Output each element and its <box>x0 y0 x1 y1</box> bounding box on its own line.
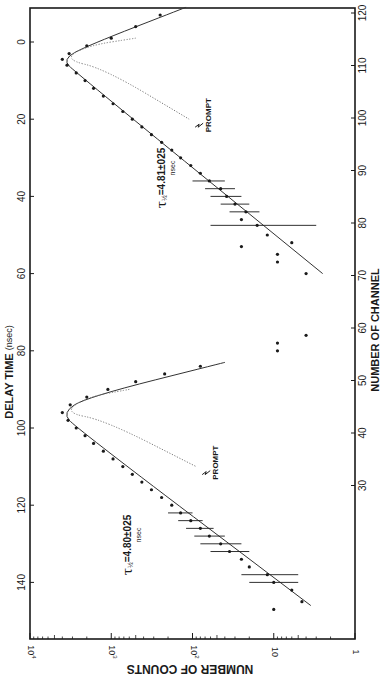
data-point <box>61 58 64 61</box>
data-point <box>83 434 86 437</box>
prompt-label: PROMPT <box>211 445 220 479</box>
counts-tick-label: 10 <box>269 647 279 657</box>
data-point <box>159 13 162 16</box>
data-point <box>170 148 173 151</box>
fit-curve <box>67 7 323 273</box>
channel-tick-label: 70 <box>357 270 368 282</box>
data-point <box>272 608 275 611</box>
counts-axis: 104103102101 <box>26 633 361 659</box>
prompt-arrow-icon <box>202 471 210 475</box>
lifetime-spectrum-chart: 020406080100120140 304050607080901001101… <box>0 0 385 678</box>
delay-tick-label: 100 <box>16 419 27 436</box>
delay-tick-label: 0 <box>16 39 27 45</box>
data-point <box>140 125 143 128</box>
plot-frame <box>30 8 355 639</box>
data-point <box>140 480 143 483</box>
data-point <box>160 141 163 144</box>
prompt-curve <box>71 38 189 119</box>
data-point <box>121 465 124 468</box>
data-point <box>102 450 105 453</box>
prompt-curve <box>71 389 196 466</box>
data-point <box>199 365 202 368</box>
svg-text:10: 10 <box>269 647 279 657</box>
channel-tick-label: 50 <box>357 375 368 387</box>
data-point <box>134 25 137 28</box>
channel-tick-label: 30 <box>357 480 368 492</box>
channel-tick-label: 60 <box>357 322 368 334</box>
data-point <box>61 411 64 414</box>
data-point <box>110 37 113 40</box>
data-series: PROMPTPROMPT <box>61 7 323 611</box>
prompt-label: PROMPT <box>204 98 213 132</box>
svg-text:1: 1 <box>351 649 361 654</box>
lifetime-annotation: τ½=4.80±025 <box>120 514 135 575</box>
channel-tick-label: 90 <box>357 165 368 177</box>
channel-axis: 30405060708090100110120 <box>351 4 368 491</box>
data-point <box>304 272 307 275</box>
channel-tick-label: 80 <box>357 217 368 229</box>
data-point <box>134 380 137 383</box>
data-point <box>150 488 153 491</box>
delay-tick-label: 80 <box>16 345 27 357</box>
data-point <box>83 79 86 82</box>
data-point <box>300 600 303 603</box>
data-point <box>189 164 192 167</box>
channel-tick-label: 100 <box>357 109 368 126</box>
data-point <box>266 233 269 236</box>
lifetime-annotation: τ½=4.81±025 <box>154 147 169 208</box>
data-point <box>240 218 243 221</box>
delay-tick-label: 20 <box>16 113 27 125</box>
channel-tick-label: 40 <box>357 427 368 439</box>
annotations: τ½=4.81±025nsecτ½=4.80±025nsec <box>120 147 176 575</box>
data-point <box>85 44 88 47</box>
data-point <box>160 496 163 499</box>
data-point <box>131 118 134 121</box>
delay-tick-label: 60 <box>16 268 27 280</box>
error-bars <box>168 181 316 582</box>
counts-tick-label: 102 <box>188 645 200 659</box>
channel-axis-title: NUMBER OF CHANNEL <box>369 268 381 392</box>
data-point <box>240 245 243 248</box>
data-point <box>240 558 243 561</box>
series-2: PROMPT <box>61 362 311 611</box>
data-point <box>92 442 95 445</box>
counts-tick-label: 104 <box>26 645 38 659</box>
series-1: PROMPT <box>61 7 323 352</box>
counts-tick-label: 103 <box>107 645 119 659</box>
counts-tick-label: 1 <box>351 649 361 654</box>
data-point <box>75 71 78 74</box>
lifetime-unit: nsec <box>169 160 176 175</box>
data-point <box>85 396 88 399</box>
data-point <box>65 64 68 67</box>
prompt-arrow-icon <box>195 123 203 127</box>
data-point <box>150 133 153 136</box>
delay-tick-label: 140 <box>16 574 27 591</box>
svg-text:102: 102 <box>188 645 200 659</box>
channel-tick-label: 120 <box>357 4 368 21</box>
data-point <box>111 102 114 105</box>
data-point <box>290 241 293 244</box>
data-point <box>179 156 182 159</box>
data-point <box>68 52 71 55</box>
data-point <box>276 349 279 352</box>
data-point <box>163 372 166 375</box>
data-point <box>69 403 72 406</box>
data-point <box>106 388 109 391</box>
delay-time-axis: 020406080100120140 <box>16 39 34 591</box>
data-point <box>102 94 105 97</box>
data-point <box>66 419 69 422</box>
data-point <box>290 589 293 592</box>
svg-text:103: 103 <box>107 645 119 659</box>
data-point <box>248 565 251 568</box>
lifetime-unit: nsec <box>135 527 142 542</box>
delay-tick-label: 40 <box>16 190 27 202</box>
delay-tick-label: 120 <box>16 496 27 513</box>
svg-text:104: 104 <box>26 645 38 659</box>
data-point <box>131 473 134 476</box>
data-point <box>276 260 279 263</box>
counts-axis-title: NUMBER OF COUNTS <box>127 662 254 676</box>
data-point <box>111 457 114 460</box>
data-point <box>75 426 78 429</box>
data-point <box>92 87 95 90</box>
data-point <box>170 504 173 507</box>
